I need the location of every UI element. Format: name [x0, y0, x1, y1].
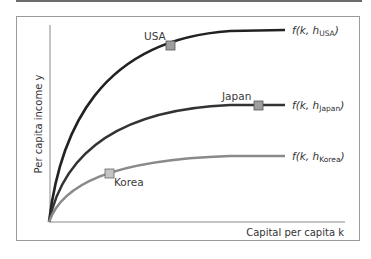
curve-korea — [49, 156, 285, 222]
chart-svg: USA Japan Korea f(k, hUSA) f(k, hJapan) … — [0, 0, 371, 259]
curve-japan — [49, 105, 285, 222]
label-usa: USA — [144, 30, 167, 42]
curve-label-korea: f(k, hKorea) — [292, 150, 345, 164]
marker-korea — [105, 169, 114, 178]
marker-japan — [254, 101, 263, 110]
curve-usa — [49, 30, 285, 222]
marker-usa — [166, 41, 175, 50]
y-axis-label: Per capita income y — [33, 75, 44, 174]
curve-label-japan: f(k, hJapan) — [292, 99, 344, 113]
x-axis-label: Capital per capita k — [246, 227, 344, 238]
label-korea: Korea — [114, 176, 144, 188]
label-japan: Japan — [221, 90, 251, 102]
curve-label-usa: f(k, hUSA) — [292, 24, 339, 38]
